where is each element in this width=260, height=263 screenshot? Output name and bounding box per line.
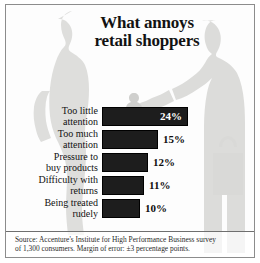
bar-track: 11% bbox=[102, 175, 254, 196]
bar-row: Being treated rudely 10% bbox=[6, 198, 254, 219]
bar-track: 12% bbox=[102, 152, 254, 173]
bar-fill bbox=[102, 153, 148, 172]
title-line-2: retail shoppers bbox=[46, 32, 248, 50]
bar-value: 11% bbox=[144, 180, 170, 191]
bar-row: Difficulty with returns 11% bbox=[6, 175, 254, 196]
bar-label-line-1: Pressure to bbox=[6, 152, 98, 163]
source-text: Source: Accenture's Institute for High P… bbox=[15, 235, 246, 253]
page-title: What annoys retail shoppers bbox=[6, 14, 248, 50]
bar-chart: Too little attention 24% Too much attent… bbox=[6, 106, 254, 221]
bar-label-line-1: Being treated bbox=[6, 198, 98, 209]
bar-value: 24% bbox=[160, 111, 187, 122]
bar-label-line-2: attention bbox=[6, 117, 98, 128]
bar-track: 24% bbox=[102, 106, 254, 127]
bar-label: Being treated rudely bbox=[6, 198, 102, 219]
bar-label-line-2: rudely bbox=[6, 209, 98, 220]
bar-fill bbox=[102, 199, 140, 218]
bar-label-line-2: attention bbox=[6, 140, 98, 151]
source-footnote: Source: Accenture's Institute for High P… bbox=[6, 231, 254, 257]
bar-fill bbox=[102, 130, 158, 149]
source-line-1: Source: Accenture's Institute for High P… bbox=[15, 235, 246, 244]
bar-label-line-1: Too much bbox=[6, 129, 98, 140]
bar-fill: 24% bbox=[102, 107, 188, 126]
bar-label-line-2: returns bbox=[6, 186, 98, 197]
bar-fill bbox=[102, 176, 144, 195]
bar-track: 15% bbox=[102, 129, 254, 150]
bar-row: Pressure to buy products 12% bbox=[6, 152, 254, 173]
bar-value: 15% bbox=[158, 134, 185, 145]
source-line-2: of 1,300 consumers. Margin of error: ±3 … bbox=[15, 244, 246, 253]
infographic-root: What annoys retail shoppers Too little a… bbox=[0, 0, 260, 263]
bar-row: Too little attention 24% bbox=[6, 106, 254, 127]
bar-label: Too little attention bbox=[6, 106, 102, 127]
bar-label-line-2: buy products bbox=[6, 163, 98, 174]
bar-label: Pressure to buy products bbox=[6, 152, 102, 173]
bar-track: 10% bbox=[102, 198, 254, 219]
bar-label-line-1: Difficulty with bbox=[6, 175, 98, 186]
bar-label: Difficulty with returns bbox=[6, 175, 102, 196]
bar-row: Too much attention 15% bbox=[6, 129, 254, 150]
title-line-1: What annoys bbox=[46, 14, 248, 32]
bar-value: 10% bbox=[140, 203, 167, 214]
infographic-frame: What annoys retail shoppers Too little a… bbox=[5, 4, 255, 258]
bar-label: Too much attention bbox=[6, 129, 102, 150]
bar-value: 12% bbox=[148, 157, 175, 168]
bar-label-line-1: Too little bbox=[6, 106, 98, 117]
